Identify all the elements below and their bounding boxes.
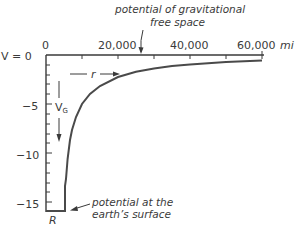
- y-label-minus10: −10: [16, 149, 39, 162]
- potential-curve: [46, 61, 262, 212]
- svg-text:potential of gravitational: potential of gravitational: [114, 3, 245, 15]
- x-label-20000: 20,000: [98, 39, 137, 52]
- y-label-zero: V = 0: [1, 50, 32, 63]
- vg-arrow: VG: [55, 81, 68, 142]
- y-label-minus15: −15: [16, 198, 39, 211]
- y-label-minus5: −5: [22, 100, 38, 113]
- svg-text:potential at the: potential at the: [91, 196, 173, 208]
- y-ticks: [46, 65, 52, 202]
- r-label: r: [91, 68, 97, 81]
- svg-text:free space: free space: [150, 16, 205, 28]
- svg-text:earth’s surface: earth’s surface: [92, 208, 171, 220]
- earth-surface-annotation: potential at the earth’s surface: [70, 196, 173, 220]
- x-label-0: 0: [42, 39, 49, 52]
- x-label-60000: 60,000: [237, 39, 276, 52]
- vg-label: VG: [55, 101, 68, 115]
- x-unit-label: mi: [280, 39, 294, 52]
- x-label-40000: 40,000: [170, 39, 209, 52]
- potential-chart: V = 0 0 20,000 40,000 60,000 mi −5 −10 −…: [0, 0, 300, 234]
- R-label: R: [49, 214, 57, 227]
